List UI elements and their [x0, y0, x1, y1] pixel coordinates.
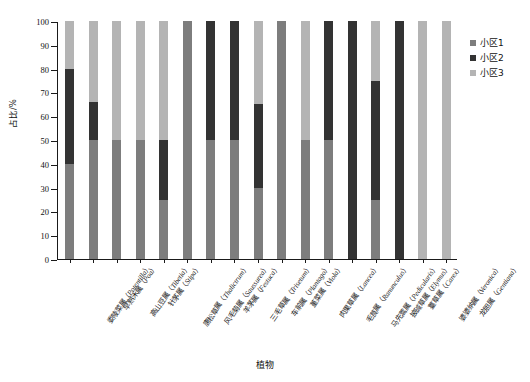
y-axis-tick — [51, 165, 57, 166]
bar-stack — [254, 22, 263, 259]
bar-segment — [324, 140, 333, 259]
bar-segment — [159, 200, 168, 260]
bar-segment — [159, 21, 168, 140]
bar-segment — [183, 21, 192, 259]
bar-stack — [301, 22, 310, 259]
bar-stack — [371, 22, 380, 259]
legend-item-label: 小区1 — [480, 36, 504, 49]
x-axis-title: 植物 — [0, 358, 530, 371]
bar-segment — [159, 140, 168, 200]
bar-segment — [324, 21, 333, 140]
bar-segment — [371, 21, 380, 81]
bar-stack — [442, 22, 451, 259]
bar-stack — [183, 22, 192, 259]
y-axis-tick — [51, 260, 57, 261]
bar-stack — [206, 22, 215, 259]
bars-layer — [58, 22, 457, 259]
bar-stack — [277, 22, 286, 259]
bar-segment — [136, 21, 145, 140]
bar-segment — [301, 21, 310, 140]
bar-segment — [348, 21, 357, 259]
y-axis-tick-label: 10 — [41, 232, 50, 241]
bar-stack — [65, 22, 74, 259]
y-axis-tick-label: 30 — [41, 184, 50, 193]
y-axis-tick — [51, 141, 57, 142]
legend-item[interactable]: 小区3 — [470, 66, 504, 79]
y-axis-tick — [51, 212, 57, 213]
x-axis-labels: 委陵菜属（Potentilla）早熟禾属（Poa）高山豆属（Tibetia）针茅… — [57, 262, 457, 362]
legend-item-label: 小区2 — [480, 51, 504, 64]
y-axis-tick-label: 60 — [41, 113, 50, 122]
y-axis-tick — [51, 236, 57, 237]
bar-stack — [112, 22, 121, 259]
bar-segment — [254, 21, 263, 104]
bar-segment — [136, 140, 145, 259]
bar-segment — [89, 21, 98, 102]
bar-segment — [301, 140, 310, 259]
bar-stack — [159, 22, 168, 259]
y-axis-tick — [51, 46, 57, 47]
bar-segment — [65, 21, 74, 69]
bar-segment — [277, 21, 286, 259]
bar-segment — [395, 21, 404, 259]
bar-segment — [89, 102, 98, 140]
legend-item[interactable]: 小区2 — [470, 51, 504, 64]
y-axis-tick-label: 100 — [36, 18, 49, 27]
legend-item-label: 小区3 — [480, 66, 504, 79]
legend-swatch-icon — [470, 70, 476, 76]
y-axis-tick-label: 0 — [45, 256, 49, 265]
bar-segment — [65, 69, 74, 164]
bar-segment — [112, 21, 121, 140]
bar-segment — [254, 104, 263, 187]
chart-container: 占比/% 0102030405060708090100 委陵菜属（Potenti… — [0, 0, 530, 382]
y-axis-tick-label: 20 — [41, 208, 50, 217]
legend: 小区1小区2小区3 — [470, 36, 504, 81]
y-axis-tick — [51, 22, 57, 23]
legend-swatch-icon — [470, 55, 476, 61]
bar-stack — [230, 22, 239, 259]
bar-stack — [136, 22, 145, 259]
y-axis-tick — [51, 70, 57, 71]
plot-area: 0102030405060708090100 — [57, 22, 457, 260]
bar-segment — [206, 21, 215, 140]
y-axis-tick — [51, 93, 57, 94]
bar-segment — [254, 188, 263, 259]
legend-swatch-icon — [470, 40, 476, 46]
bar-segment — [442, 21, 451, 259]
y-axis-title: 占比/% — [6, 99, 18, 128]
bar-segment — [371, 200, 380, 260]
bar-stack — [348, 22, 357, 259]
bar-stack — [324, 22, 333, 259]
bar-stack — [89, 22, 98, 259]
bar-segment — [418, 21, 427, 259]
bar-segment — [65, 164, 74, 259]
y-axis-tick-label: 50 — [41, 137, 50, 146]
bar-stack — [418, 22, 427, 259]
y-axis-tick-label: 70 — [41, 89, 50, 98]
y-axis-tick-label: 80 — [41, 65, 50, 74]
y-axis-tick-label: 40 — [41, 161, 50, 170]
bar-segment — [112, 140, 121, 259]
bar-segment — [89, 140, 98, 259]
bar-segment — [371, 81, 380, 200]
y-axis-tick — [51, 117, 57, 118]
bar-segment — [206, 140, 215, 259]
bar-segment — [230, 140, 239, 259]
y-axis-tick-label: 90 — [41, 42, 50, 51]
y-axis-tick — [51, 189, 57, 190]
bar-segment — [230, 21, 239, 140]
bar-stack — [395, 22, 404, 259]
legend-item[interactable]: 小区1 — [470, 36, 504, 49]
